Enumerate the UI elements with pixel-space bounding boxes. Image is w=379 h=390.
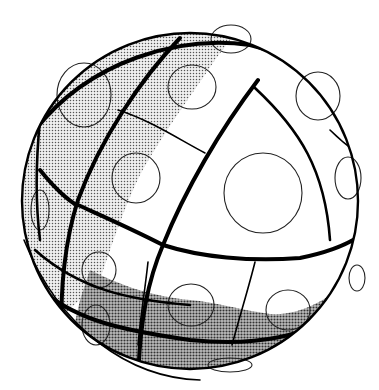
sphere-illustration	[0, 0, 379, 390]
